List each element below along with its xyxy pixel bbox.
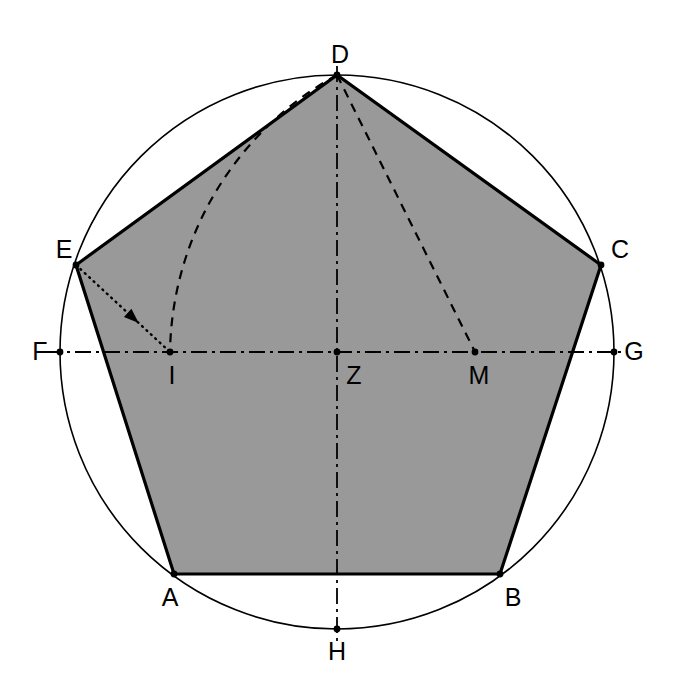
point-marker-M — [472, 349, 479, 356]
pentagon-diagram: ABCDEFGHIMZ — [0, 0, 675, 676]
point-marker-I — [167, 349, 174, 356]
point-label-G: G — [624, 339, 643, 364]
point-label-A: A — [162, 585, 179, 610]
geometry-canvas — [0, 0, 675, 676]
point-marker-A — [171, 571, 178, 578]
point-marker-E — [73, 262, 80, 269]
point-label-I: I — [169, 363, 176, 388]
point-marker-F — [57, 349, 64, 356]
point-label-C: C — [611, 237, 629, 262]
point-marker-H — [334, 626, 341, 633]
point-marker-G — [611, 349, 618, 356]
point-label-F: F — [32, 339, 47, 364]
point-label-Z: Z — [346, 363, 361, 388]
point-label-D: D — [331, 42, 349, 67]
point-marker-C — [598, 262, 605, 269]
point-label-H: H — [328, 639, 346, 664]
point-marker-D — [334, 72, 341, 79]
point-label-M: M — [469, 363, 490, 388]
point-label-B: B — [505, 585, 522, 610]
point-label-E: E — [56, 237, 73, 262]
point-marker-B — [497, 571, 504, 578]
point-marker-Z — [334, 349, 341, 356]
pentagon-shape — [76, 75, 601, 574]
